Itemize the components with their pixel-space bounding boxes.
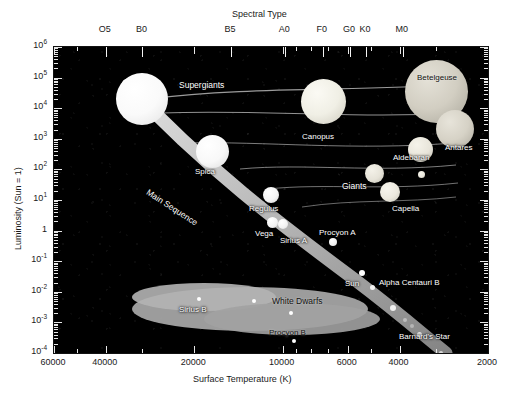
star-label-barnards-star: Barnard's Star [399,332,450,341]
x-tick-label: 2000 [457,357,510,367]
y-tick-mark [484,56,488,57]
x-tick-mark [142,349,143,353]
y-tick-mark [54,232,58,233]
y-tick-mark [54,176,58,177]
star-sphere-sirius-a [278,219,288,229]
star-point-barnards-star [439,351,443,354]
star-point-sun [359,270,365,276]
star-sphere-canopus [301,79,346,124]
y-tick-mark [54,148,58,149]
star-label-spica: Spica [195,167,215,176]
y-tick-mark [484,297,488,298]
y-tick-mark [484,82,488,83]
y-tick-mark [484,264,488,265]
y-tick-mark [484,325,488,326]
y-tick-mark [54,240,58,241]
spectral-tick-mark [403,47,404,57]
y-tick-mark [54,182,58,183]
star-point-ms-1 [390,305,396,311]
y-tick-mark [484,263,488,264]
y-tick-mark [54,99,58,100]
x-tick-label: 10000 [252,357,312,367]
x-tick-mark [54,47,55,54]
y-tick-mark [484,176,488,177]
y-tick-mark [54,142,58,143]
y-tick-mark [54,247,58,248]
y-tick-mark [484,59,488,60]
y-tick-mark [484,252,488,253]
x-tick-mark [296,349,297,353]
y-tick-label: 104 [0,101,47,111]
y-tick-mark [54,200,62,201]
x-tick-mark [106,47,107,54]
x-tick-mark [283,346,284,353]
y-tick-mark [484,237,488,238]
y-tick-mark [54,261,62,262]
y-tick-mark [484,151,488,152]
y-tick-mark [54,338,58,339]
x-tick-mark [348,47,349,54]
y-tick-mark [54,120,58,121]
spectral-tick-mark [285,47,286,57]
y-tick-mark [484,283,488,284]
y-tick-mark [54,216,58,217]
spectral-tick-label: B5 [210,24,250,34]
y-tick-mark [480,292,488,293]
spectral-tick-mark [350,47,351,57]
y-tick-mark [484,212,488,213]
spectral-tick-mark [231,47,232,57]
y-tick-mark [54,94,58,95]
y-tick-mark [54,277,58,278]
y-tick-mark [54,81,58,82]
y-tick-mark [54,203,58,204]
x-tick-mark [142,47,143,51]
y-tick-mark [54,221,58,222]
y-tick-mark [484,48,488,49]
y-tick-mark [54,335,58,336]
y-tick-mark [484,90,488,91]
y-tick-mark [54,293,58,294]
y-tick-mark [484,205,488,206]
y-tick-mark [484,268,488,269]
y-tick-mark [484,232,488,233]
star-label-sun: Sun [345,279,359,288]
y-tick-mark [484,299,488,300]
top-axis-title: Spectral Type [232,9,287,19]
spectral-tick-label: B0 [121,24,161,34]
star-label-sirius-a: Sirius A [280,236,307,245]
y-tick-mark [484,120,488,121]
y-tick-mark [484,111,488,112]
y-tick-mark [54,174,58,175]
y-tick-mark [484,179,488,180]
y-tick-mark [484,338,488,339]
star-label-procyon-a: Procyon A [319,228,355,237]
y-tick-mark [54,295,58,296]
y-tick-mark [54,266,58,267]
y-tick-mark [54,263,58,264]
y-tick-mark [484,270,488,271]
star-point-ms-3 [410,324,414,328]
x-tick-label: 20000 [163,357,223,367]
y-tick-mark [484,113,488,114]
y-tick-mark [54,108,62,109]
hr-diagram-figure: Spectral Type O5B0B5A0F0G0K0M0 Luminosit… [0,0,510,401]
y-tick-label: 106 [0,40,47,50]
y-tick-mark [484,99,488,100]
x-tick-mark [436,47,437,51]
star-label-betelgeuse: Betelgeuse [417,73,457,82]
star-point-wd-mid-2 [289,311,293,315]
y-tick-mark [54,179,58,180]
star-label-regulus: Regulus [249,204,278,213]
x-tick-mark [283,47,284,54]
x-tick-mark [400,346,401,353]
y-tick-mark [54,252,58,253]
y-tick-label: 10-2 [0,285,47,295]
y-tick-mark [54,113,58,114]
y-tick-mark [480,200,488,201]
star-point-wd-mid [252,299,256,303]
y-tick-label: 10-4 [0,346,47,356]
y-tick-mark [484,68,488,69]
y-tick-mark [54,52,58,53]
y-tick-mark [54,243,58,244]
y-tick-label: 105 [0,71,47,81]
